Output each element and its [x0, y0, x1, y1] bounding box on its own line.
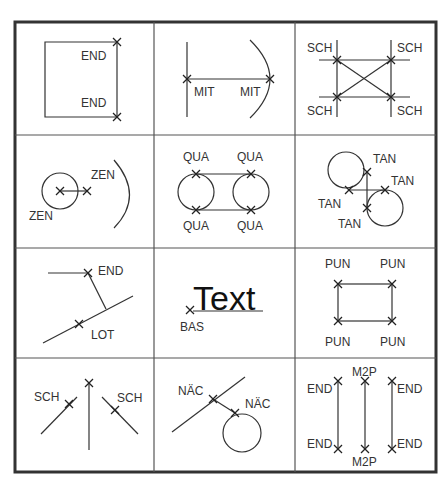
snap-label: END — [98, 264, 124, 278]
snap-label: MIT — [194, 85, 215, 99]
snap-label: END — [81, 49, 107, 63]
snap-label: PUN — [380, 335, 405, 349]
snap-label: M2P — [352, 455, 377, 469]
outer-border — [15, 22, 436, 472]
osnap-diagram: END END MIT MIT SCH SCH SCH SCH ZEN ZEN — [0, 0, 446, 487]
snap-label: NÄC — [178, 384, 204, 398]
snap-label: PUN — [325, 335, 350, 349]
snap-label: TAN — [373, 152, 396, 166]
snap-label: ZEN — [29, 209, 53, 223]
cell-endpoint: END END — [45, 38, 121, 121]
snap-label: QUA — [183, 150, 209, 164]
cell-center: ZEN ZEN — [29, 160, 130, 228]
cell-midpoint: MIT MIT — [183, 40, 274, 118]
cell-quadrant: QUA QUA QUA QUA — [178, 150, 269, 233]
cell-intersection: SCH SCH SCH SCH — [307, 40, 422, 118]
cell-apparent-intersection: SCH SCH — [34, 379, 142, 450]
snap-label: BAS — [180, 320, 204, 334]
snap-label: LOT — [91, 328, 115, 342]
snap-label: TAN — [318, 197, 341, 211]
snap-label: M2P — [352, 365, 377, 379]
snap-label: QUA — [237, 219, 263, 233]
cell-perpendicular: END LOT — [43, 264, 133, 343]
cell-tangent: TAN TAN TAN TAN — [318, 152, 414, 231]
cell-nearest: NÄC NÄC — [172, 377, 271, 452]
snap-label: SCH — [307, 41, 332, 55]
snap-label: END — [307, 437, 333, 451]
cell-node: PUN PUN PUN PUN — [325, 257, 405, 349]
snap-label: PUN — [325, 257, 350, 271]
snap-label: TAN — [391, 174, 414, 188]
snap-label: END — [397, 437, 423, 451]
cell-endpoint-midpoint: END M2P END END M2P END — [307, 365, 423, 469]
cell-insertion: Text BAS — [180, 279, 263, 334]
snap-label: PUN — [380, 257, 405, 271]
snap-label: MIT — [240, 85, 261, 99]
snap-label: SCH — [307, 104, 332, 118]
snap-label: END — [397, 382, 423, 396]
snap-label: NÄC — [245, 397, 271, 411]
snap-label: ZEN — [91, 168, 115, 182]
snap-label: SCH — [397, 104, 422, 118]
snap-label: END — [307, 382, 333, 396]
snap-label: SCH — [397, 41, 422, 55]
snap-label: TAN — [338, 217, 361, 231]
snap-label: END — [81, 96, 107, 110]
snap-label: QUA — [237, 150, 263, 164]
snap-label: QUA — [183, 219, 209, 233]
grid — [15, 22, 436, 472]
snap-label: SCH — [34, 390, 59, 404]
snap-label: SCH — [117, 391, 142, 405]
